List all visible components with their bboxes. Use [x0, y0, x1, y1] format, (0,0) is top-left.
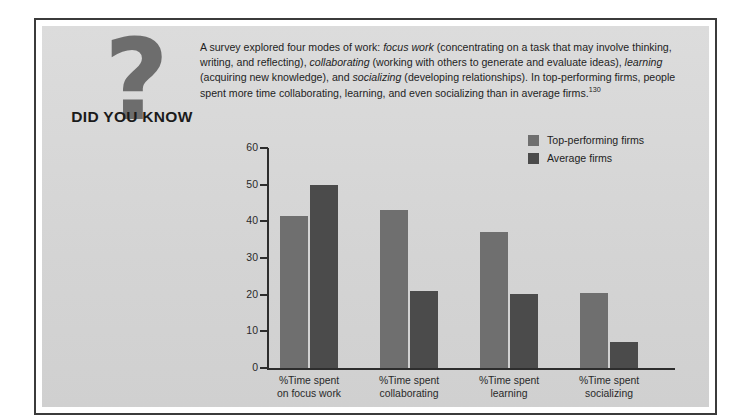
intro-segment-0: A survey explored four modes of work: — [200, 41, 383, 53]
work-modes-bar-chart: 0102030405060 %Time spenton focus work%T… — [228, 124, 698, 407]
x-axis-category-line: learning — [459, 387, 559, 400]
y-axis-tick — [260, 220, 268, 222]
x-axis-category-line: %Time spent — [459, 374, 559, 387]
did-you-know-callout-box: ? DID YOU KNOW A survey explored four mo… — [34, 18, 717, 415]
x-axis-category-line: %Time spent — [259, 374, 359, 387]
legend-item-0: Top-performing firms — [528, 134, 708, 146]
y-axis-tick — [260, 147, 268, 149]
callout-panel: ? DID YOU KNOW A survey explored four mo… — [42, 26, 709, 407]
y-axis-label: 50 — [228, 178, 258, 190]
chart-legend: Top-performing firmsAverage firms — [528, 134, 708, 170]
x-axis-category-line: %Time spent — [359, 374, 459, 387]
x-axis-category-label-1: %Time spentcollaborating — [359, 374, 459, 400]
bar-top-performing-3 — [580, 293, 608, 368]
x-axis-line — [267, 368, 675, 370]
question-mark-icon: ? — [104, 30, 178, 148]
y-axis-tick — [260, 330, 268, 332]
bar-average-3 — [610, 342, 638, 368]
intro-segment-3: collaborating — [310, 56, 370, 68]
intro-segment-5: learning — [625, 56, 663, 68]
bar-average-2 — [510, 294, 538, 368]
legend-item-1: Average firms — [528, 152, 708, 164]
bar-average-1 — [410, 291, 438, 368]
legend-label: Average firms — [547, 152, 612, 164]
bar-top-performing-1 — [380, 210, 408, 368]
intro-segment-6: (acquiring new knowledge), and — [200, 71, 353, 83]
legend-swatch-icon — [528, 153, 539, 164]
bar-average-0 — [310, 185, 338, 368]
did-you-know-label: DID YOU KNOW — [52, 108, 212, 126]
x-axis-category-line: on focus work — [259, 387, 359, 400]
y-axis-tick — [260, 294, 268, 296]
y-axis-tick — [260, 257, 268, 259]
legend-swatch-icon — [528, 135, 539, 146]
x-axis-category-line: socializing — [559, 387, 659, 400]
intro-segment-9: 130 — [589, 85, 601, 94]
y-axis-tick — [260, 184, 268, 186]
y-axis-label: 0 — [228, 361, 258, 373]
y-axis-tick — [260, 367, 268, 369]
did-you-know-badge: ? DID YOU KNOW — [52, 30, 212, 155]
y-axis-line — [267, 148, 269, 370]
x-axis-category-line: collaborating — [359, 387, 459, 400]
y-axis-label: 30 — [228, 251, 258, 263]
intro-segment-4: (working with others to generate and eva… — [370, 56, 625, 68]
x-axis-category-label-3: %Time spentsocializing — [559, 374, 659, 400]
page-root: ? DID YOU KNOW A survey explored four mo… — [0, 0, 749, 415]
bar-top-performing-0 — [280, 216, 308, 368]
intro-segment-1: focus work — [383, 41, 434, 53]
bar-top-performing-2 — [480, 232, 508, 368]
intro-paragraph: A survey explored four modes of work: fo… — [200, 40, 703, 101]
x-axis-category-line: %Time spent — [559, 374, 659, 387]
y-axis-label: 60 — [228, 141, 258, 153]
y-axis-label: 20 — [228, 288, 258, 300]
x-axis-category-label-0: %Time spenton focus work — [259, 374, 359, 400]
x-axis-category-label-2: %Time spentlearning — [459, 374, 559, 400]
intro-segment-7: socializing — [353, 71, 402, 83]
y-axis-label: 40 — [228, 214, 258, 226]
legend-label: Top-performing firms — [547, 134, 644, 146]
y-axis-label: 10 — [228, 324, 258, 336]
